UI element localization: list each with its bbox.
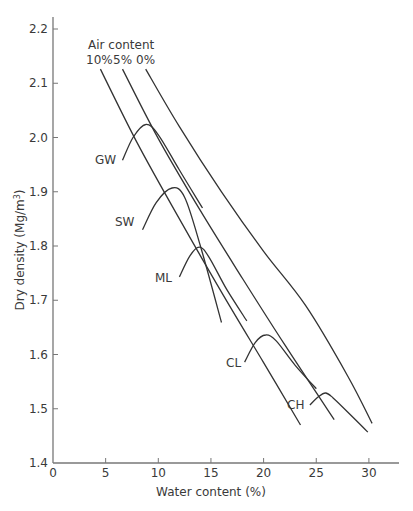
x-axis-label: Water content (%)	[156, 485, 266, 499]
label-cl: CL	[226, 356, 241, 370]
label-gw: GW	[95, 153, 116, 167]
x-tick-label: 5	[102, 466, 110, 480]
y-tick-label: 2.1	[29, 76, 48, 90]
y-tick-label: 1.9	[29, 185, 48, 199]
label-ml: ML	[155, 271, 172, 285]
label-sw: SW	[115, 215, 135, 229]
y-tick-label: 1.5	[29, 402, 48, 416]
x-tick-label: 25	[309, 466, 324, 480]
curve-sw	[143, 188, 222, 323]
x-tick-label: 30	[361, 466, 376, 480]
x-tick-label: 10	[151, 466, 166, 480]
x-tick-label: 0	[49, 466, 57, 480]
compaction-chart: 051015202530 1.41.51.61.71.81.92.02.12.2…	[0, 0, 413, 511]
y-tick-label: 1.7	[29, 293, 48, 307]
air-label-5: 5%	[113, 53, 132, 67]
air-content-title: Air content	[88, 38, 155, 52]
x-tick-label: 15	[203, 466, 218, 480]
air-label-10: 10%	[86, 53, 113, 67]
x-axis-ticks: 051015202530	[49, 458, 376, 480]
curve-labels: GWSWMLCLCH	[95, 153, 304, 412]
label-ch: CH	[287, 398, 304, 412]
x-tick-label: 20	[256, 466, 271, 480]
y-tick-label: 2.2	[29, 22, 48, 36]
y-tick-label: 1.4	[29, 456, 48, 470]
air-label-0: 0%	[136, 53, 155, 67]
curve-cl	[245, 335, 317, 389]
curve-ml	[179, 247, 246, 321]
y-tick-label: 1.8	[29, 239, 48, 253]
curve-ch	[310, 393, 368, 432]
y-tick-label: 1.6	[29, 348, 48, 362]
curve-0-air	[146, 69, 372, 423]
series-lines	[100, 69, 372, 432]
y-tick-label: 2.0	[29, 131, 48, 145]
axes	[53, 17, 399, 463]
y-axis-label: Dry density (Mg/m3)	[13, 189, 28, 310]
